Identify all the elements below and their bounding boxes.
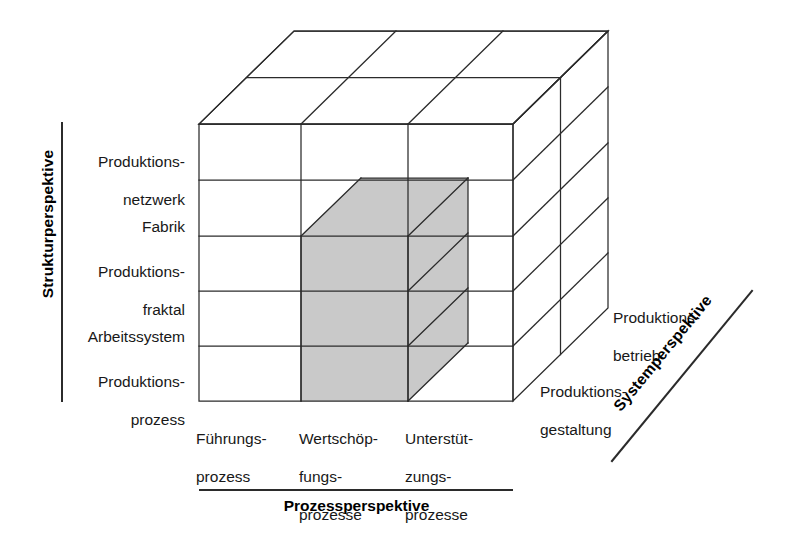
row-label-line-1: Fabrik bbox=[142, 218, 185, 235]
depth-label-line-2: gestaltung bbox=[540, 421, 612, 438]
row-label-fabrik: Fabrik bbox=[35, 198, 185, 236]
axis-title-prozessperspektive: Prozessperspektive bbox=[200, 497, 513, 515]
row-label-arbeitssystem: Arbeitssystem bbox=[35, 308, 185, 346]
col-label-line-2: prozess bbox=[196, 468, 250, 485]
highlight-front-face bbox=[301, 236, 408, 401]
col-label-fuehrungsprozess: Führungs- prozess bbox=[196, 410, 306, 486]
row-label-line-1: Produktions- bbox=[98, 373, 185, 390]
col-label-line-1: Wertschöp- bbox=[299, 430, 378, 447]
diagram-canvas: Produktions- netzwerk Fabrik Produktions… bbox=[0, 0, 785, 534]
col-label-line-1: Unterstüt- bbox=[405, 430, 473, 447]
row-label-line-1: Produktions- bbox=[98, 153, 185, 170]
row-label-line-1: Produktions- bbox=[98, 263, 185, 280]
row-label-produktionsprozess: Produktions- prozess bbox=[35, 353, 185, 429]
axis-title-strukturperspektive: Strukturperspektive bbox=[39, 114, 57, 334]
col-label-line-2: fungs- bbox=[299, 468, 342, 485]
row-label-line-2: prozess bbox=[131, 411, 185, 428]
col-label-line-1: Führungs- bbox=[196, 430, 267, 447]
row-label-line-1: Arbeitssystem bbox=[88, 328, 185, 345]
col-label-line-2: zungs- bbox=[405, 468, 452, 485]
